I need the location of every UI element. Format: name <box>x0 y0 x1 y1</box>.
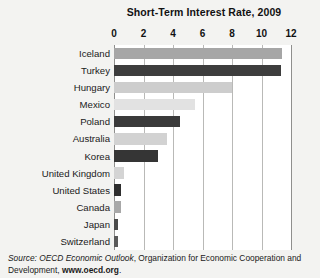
bar-united-states[interactable] <box>114 184 121 195</box>
category-label-iceland: Iceland <box>79 45 110 62</box>
bar-row: Japan <box>0 216 320 233</box>
bar-poland[interactable] <box>114 116 180 127</box>
chart-title: Short-Term Interest Rate, 2009 <box>114 6 294 18</box>
bar-hungary[interactable] <box>114 82 232 93</box>
category-label-united-kingdom: United Kingdom <box>42 165 110 182</box>
x-tick-label-6: 6 <box>200 28 206 39</box>
bar-turkey[interactable] <box>114 65 281 76</box>
bar-row: Mexico <box>0 96 320 113</box>
bar-row: Switzerland <box>0 233 320 250</box>
bar-canada[interactable] <box>114 201 121 212</box>
x-tick-label-12: 12 <box>285 28 296 39</box>
bar-united-kingdom[interactable] <box>114 167 124 178</box>
bar-row: Australia <box>0 130 320 147</box>
category-label-japan: Japan <box>84 216 110 233</box>
bar-mexico[interactable] <box>114 99 195 110</box>
bar-row: Poland <box>0 113 320 130</box>
bar-korea[interactable] <box>114 150 158 161</box>
bar-japan[interactable] <box>114 219 118 230</box>
bar-row: United Kingdom <box>0 165 320 182</box>
category-label-turkey: Turkey <box>81 62 110 79</box>
bar-australia[interactable] <box>114 133 167 144</box>
x-tick-label-10: 10 <box>256 28 267 39</box>
bar-row: Iceland <box>0 45 320 62</box>
category-label-australia: Australia <box>73 130 110 147</box>
category-label-korea: Korea <box>84 148 110 165</box>
category-label-switzerland: Switzerland <box>60 233 110 250</box>
bar-switzerland[interactable] <box>114 236 118 247</box>
category-label-canada: Canada <box>76 199 110 216</box>
chart-figure: Short-Term Interest Rate, 2009 024681012… <box>0 0 320 278</box>
bar-row: Canada <box>0 199 320 216</box>
category-label-mexico: Mexico <box>80 96 110 113</box>
category-label-united-states: United States <box>52 182 110 199</box>
source-suffix: . <box>119 265 121 275</box>
x-tick-label-2: 2 <box>141 28 147 39</box>
category-label-poland: Poland <box>80 113 110 130</box>
bar-row: Korea <box>0 148 320 165</box>
x-tick-label-0: 0 <box>111 28 117 39</box>
bar-iceland[interactable] <box>114 48 282 59</box>
bar-row: Turkey <box>0 62 320 79</box>
bar-row: Hungary <box>0 79 320 96</box>
source-url[interactable]: www.oecd.org <box>62 265 119 275</box>
category-label-hungary: Hungary <box>74 79 110 96</box>
source-note: Source: OECD Economic Outlook, Organizat… <box>8 253 314 276</box>
source-prefix: Source: OECD Economic Outlook <box>8 253 134 263</box>
x-tick-label-4: 4 <box>170 28 176 39</box>
x-tick-label-8: 8 <box>229 28 235 39</box>
bar-row: United States <box>0 182 320 199</box>
